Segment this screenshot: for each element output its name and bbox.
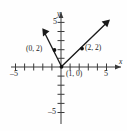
y-tick-label-negative-5: –5 <box>48 108 56 116</box>
point-marker-right <box>80 47 84 51</box>
point-label-vertex: (1, 0) <box>66 70 82 78</box>
coordinate-plane <box>0 0 127 131</box>
point-marker-vertex <box>60 65 64 69</box>
x-tick-label-positive-5: 5 <box>104 70 108 78</box>
y-tick-label-positive-5: 5 <box>53 18 57 26</box>
point-label-right: (2, 2) <box>85 44 101 52</box>
graph-figure: y x –5 5 5 –5 (0, 2) (2, 2) (1, 0) <box>0 0 127 131</box>
x-tick-label-negative-5: –5 <box>10 70 18 78</box>
x-axis-label: x <box>119 58 122 66</box>
y-axis-label: y <box>57 10 60 18</box>
point-marker-left <box>53 48 57 52</box>
point-label-left: (0, 2) <box>26 45 42 53</box>
